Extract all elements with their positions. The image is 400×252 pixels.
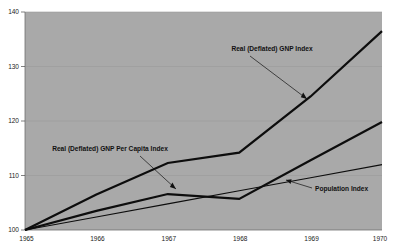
- x-tick-label-1970: 1970: [373, 235, 388, 242]
- annotation-label-population-index: Population Index: [315, 185, 368, 193]
- y-tick-label-130: 130: [8, 63, 19, 70]
- line-chart: 140 130 120 110 100 1965 1966 1967 1968 …: [0, 0, 400, 252]
- y-tick-marks: [21, 12, 25, 230]
- y-tick-label-120: 120: [8, 117, 19, 124]
- x-tick-label-1968: 1968: [233, 235, 248, 242]
- x-tick-labels: 1965 1966 1967 1968 1969 1970: [19, 235, 387, 242]
- chart-figure: 140 130 120 110 100 1965 1966 1967 1968 …: [0, 0, 400, 252]
- annotation-label-real-gnp-per-capita-index: Real (Deflated) GNP Per Capita Index: [52, 145, 168, 153]
- annotation-label-real-gnp-index: Real (Deflated) GNP Index: [231, 45, 313, 53]
- y-tick-label-100: 100: [8, 226, 19, 233]
- y-tick-label-110: 110: [9, 172, 20, 179]
- x-tick-label-1967: 1967: [162, 235, 177, 242]
- x-tick-label-1966: 1966: [90, 235, 105, 242]
- y-tick-label-140: 140: [8, 8, 19, 15]
- y-tick-labels: 140 130 120 110 100: [8, 8, 19, 233]
- x-tick-label-1965: 1965: [19, 235, 34, 242]
- x-tick-label-1969: 1969: [304, 235, 319, 242]
